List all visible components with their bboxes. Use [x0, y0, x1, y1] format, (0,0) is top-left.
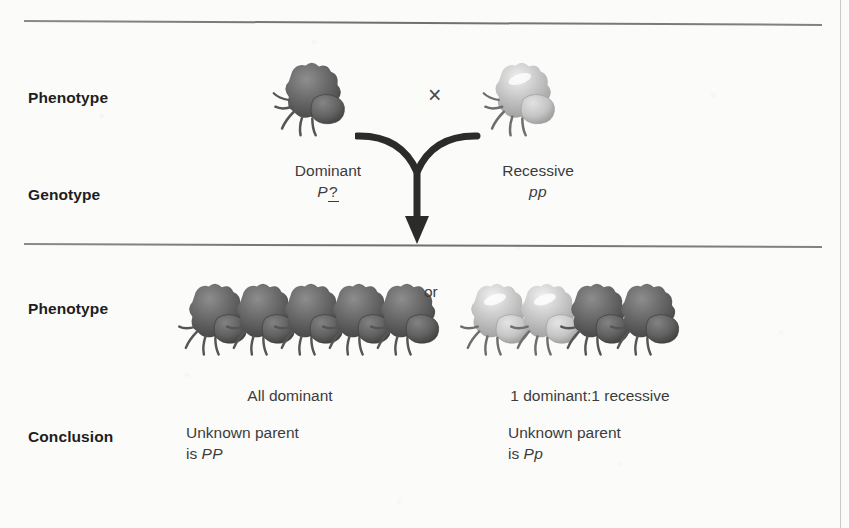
conclusion-left-line1: Unknown parent: [186, 422, 356, 443]
row-label-phenotype-offspring: Phenotype: [28, 300, 108, 318]
cross-symbol: ×: [428, 84, 441, 107]
conclusion-right: Unknown parent is Pp: [508, 422, 688, 464]
offspring-specimen: [608, 279, 690, 361]
parent-dominant-unknown-allele: ?: [328, 183, 339, 202]
conclusion-left: Unknown parent is PP: [186, 422, 356, 464]
offspring-result-ratio: 1 dominant:1 recessive: [460, 385, 720, 406]
conclusion-left-prefix: is: [186, 445, 202, 462]
offspring-group-ratio: [458, 275, 703, 365]
page-edge-line: [840, 0, 841, 528]
conclusion-right-prefix: is: [508, 445, 524, 462]
conclusion-right-genotype: Pp: [524, 445, 544, 462]
cross-arrow-icon: [355, 108, 505, 248]
row-label-phenotype-parents: Phenotype: [28, 89, 108, 107]
conclusion-left-line2: is PP: [186, 443, 356, 464]
divider-top: [24, 20, 822, 26]
parent-dominant-specimen-icon: [272, 58, 356, 142]
conclusion-right-line1: Unknown parent: [508, 422, 688, 443]
row-label-conclusion: Conclusion: [28, 428, 113, 446]
scan-noise-overlay: [0, 0, 849, 528]
conclusion-left-genotype: PP: [202, 445, 223, 462]
offspring-separator-or: or: [424, 283, 438, 301]
row-label-genotype-parents: Genotype: [28, 186, 100, 204]
figure-canvas: Phenotype Genotype Phenotype Conclusion: [0, 0, 849, 528]
offspring-result-all-dominant: All dominant: [180, 385, 400, 406]
offspring-group-all-dominant: [176, 275, 426, 365]
parent-dominant-allele: P: [317, 183, 328, 200]
conclusion-right-line2: is Pp: [508, 443, 688, 464]
